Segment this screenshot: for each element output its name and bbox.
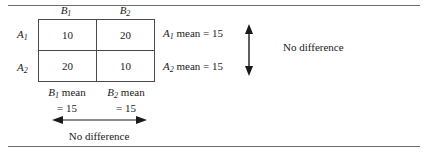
column-header-b1-subscript: 1 — [67, 9, 71, 18]
figure-canvas: B1 B2 A1 A2 10 20 20 10 A1 mean = 15 A2 … — [0, 0, 428, 157]
row-header-a2: A2 — [17, 61, 28, 77]
column-mean-b1-base: B — [48, 86, 55, 98]
row-mean-a2-text: mean = 15 — [174, 60, 223, 72]
data-matrix: 10 20 20 10 — [38, 19, 155, 82]
row-mean-a1: A1 mean = 15 — [163, 27, 223, 43]
column-mean-b2-line1: mean — [118, 86, 145, 98]
row-mean-a2-base: A — [163, 60, 170, 72]
row-mean-a1-base: A — [163, 27, 170, 39]
table-row: 20 10 — [39, 51, 155, 82]
row-header-a1: A1 — [17, 28, 28, 44]
column-mean-b1: B1 mean = 15 — [48, 86, 85, 115]
bottom-rule — [8, 146, 420, 147]
horizontal-double-arrow-icon — [52, 112, 147, 128]
row-header-a1-base: A — [17, 28, 24, 40]
column-header-b2-subscript: 2 — [126, 9, 130, 18]
row-mean-a1-text: mean = 15 — [174, 27, 223, 39]
column-header-b2-base: B — [120, 4, 127, 16]
no-difference-rows-label: No difference — [283, 41, 344, 54]
column-header-b1-base: B — [61, 4, 68, 16]
row-header-a2-subscript: 2 — [24, 66, 28, 75]
row-header-a2-base: A — [17, 61, 24, 73]
cell-a1b1: 10 — [39, 20, 97, 51]
vertical-double-arrow-icon — [241, 24, 257, 76]
column-header-b2: B2 — [120, 4, 131, 20]
row-mean-a2: A2 mean = 15 — [163, 60, 223, 76]
column-mean-b2: B2 mean = 15 — [107, 86, 144, 115]
no-difference-columns-label: No difference — [69, 130, 130, 143]
row-header-a1-subscript: 1 — [24, 33, 28, 42]
column-mean-b2-base: B — [107, 86, 114, 98]
column-mean-b1-line1: mean — [59, 86, 86, 98]
table-row: 10 20 — [39, 20, 155, 51]
cell-a2b1: 20 — [39, 51, 97, 82]
cell-a2b2: 10 — [97, 51, 155, 82]
column-header-b1: B1 — [61, 4, 72, 20]
cell-a1b2: 20 — [97, 20, 155, 51]
